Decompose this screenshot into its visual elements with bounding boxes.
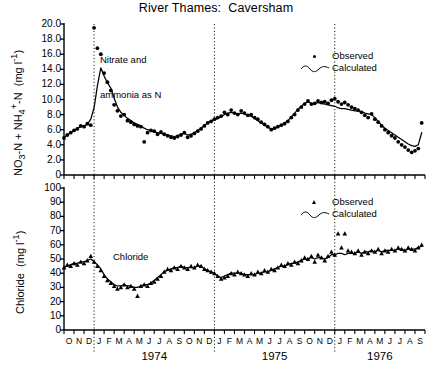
data-point-observed — [135, 294, 140, 298]
data-point-observed — [416, 147, 420, 151]
data-point-observed — [186, 135, 190, 139]
data-point-observed — [396, 140, 400, 144]
data-point-observed — [312, 260, 317, 264]
data-point-observed — [316, 252, 321, 256]
data-point-observed — [95, 46, 99, 50]
data-point-observed — [229, 108, 233, 112]
data-point-observed — [393, 136, 397, 140]
data-point-observed — [336, 100, 340, 104]
figure-container: River Thames: Caversham Nitrate and ammo… — [0, 0, 432, 374]
data-point-observed — [346, 248, 351, 252]
data-point-observed — [336, 231, 341, 235]
data-point-observed — [343, 101, 347, 105]
data-point-observed — [89, 123, 93, 127]
data-point-observed — [342, 231, 347, 235]
series-line-calculated — [64, 68, 422, 147]
plot-surface — [0, 0, 432, 374]
data-point-observed — [390, 134, 394, 138]
data-point-observed — [420, 121, 424, 125]
series-line-calculated — [64, 246, 422, 287]
data-point-observed — [346, 103, 350, 107]
data-point-observed — [146, 131, 150, 135]
data-point-observed — [410, 150, 414, 154]
data-point-observed — [333, 97, 337, 101]
data-point-observed — [142, 140, 146, 144]
data-point-observed — [339, 245, 344, 249]
data-point-observed — [366, 116, 370, 120]
data-point-observed — [403, 145, 407, 149]
data-point-observed — [350, 105, 354, 109]
data-point-observed — [406, 148, 410, 152]
bottom-panel-axes — [60, 187, 425, 334]
data-point-observed — [400, 143, 404, 147]
data-point-observed — [119, 114, 123, 118]
data-point-observed — [330, 98, 334, 102]
data-point-observed — [88, 254, 93, 258]
data-point-observed — [329, 250, 334, 254]
data-point-observed — [99, 52, 103, 56]
data-point-observed — [340, 102, 344, 106]
data-point-observed — [413, 149, 417, 153]
data-point-observed — [239, 109, 243, 113]
data-point-observed — [92, 26, 96, 30]
